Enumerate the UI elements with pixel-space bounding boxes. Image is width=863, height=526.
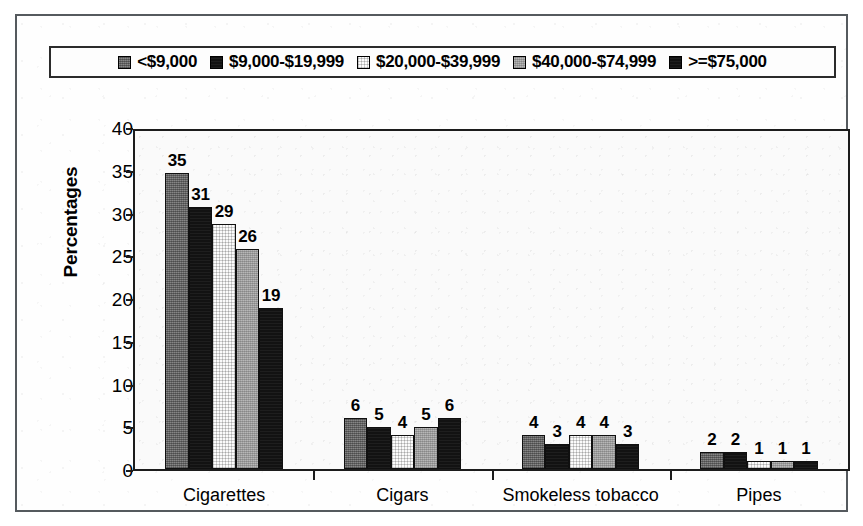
y-axis-tick-mark: [126, 214, 133, 216]
bar-value-label: 26: [238, 228, 257, 245]
bar-item[interactable]: 3: [545, 131, 569, 469]
legend-entry[interactable]: $20,000-$39,999: [357, 52, 500, 72]
bar-item[interactable]: 4: [569, 131, 593, 469]
bar-value-label: 5: [421, 406, 430, 423]
bar-value-label: 4: [599, 414, 608, 431]
dark-gray-swatch: [118, 56, 131, 69]
x-axis-group-separator: [670, 471, 672, 480]
bar-value-label: 31: [191, 186, 210, 203]
bar-value-label: 6: [351, 397, 360, 414]
bar-group: 65456: [344, 131, 462, 469]
bar-item[interactable]: 29: [212, 131, 236, 469]
bar-item[interactable]: 1: [747, 131, 771, 469]
legend-label: <$9,000: [137, 52, 197, 72]
bar[interactable]: [438, 418, 462, 469]
black-swatch: [669, 56, 682, 69]
white-swatch: [357, 56, 370, 69]
y-axis-tick-mark: [126, 385, 133, 387]
x-axis-group-separator: [492, 471, 494, 480]
y-axis-tick-mark: [126, 427, 133, 429]
y-axis-tick-mark: [126, 128, 133, 130]
bar[interactable]: [344, 418, 368, 469]
bar-value-label: 2: [707, 431, 716, 448]
y-axis-ticks: 0510152025303540: [79, 129, 133, 471]
bar-item[interactable]: 6: [344, 131, 368, 469]
bar-item[interactable]: 6: [438, 131, 462, 469]
bar-value-label: 5: [374, 406, 383, 423]
y-axis-tick-mark: [126, 470, 133, 472]
bar[interactable]: [212, 224, 236, 469]
bar-item[interactable]: 3: [616, 131, 640, 469]
bars-layer: 3531292619654564344322111: [135, 131, 848, 469]
bar-item[interactable]: 26: [236, 131, 260, 469]
y-axis-tick-mark: [126, 299, 133, 301]
bar[interactable]: [616, 444, 640, 469]
bar[interactable]: [367, 427, 391, 469]
bar-item[interactable]: 4: [592, 131, 616, 469]
bar[interactable]: [189, 207, 213, 469]
bar-item[interactable]: 2: [700, 131, 724, 469]
bar[interactable]: [724, 452, 748, 469]
bar[interactable]: [236, 249, 260, 469]
black-swatch: [210, 56, 223, 69]
legend-label: >=$75,000: [688, 52, 767, 72]
bar-value-label: 1: [754, 440, 763, 457]
bar-value-label: 4: [529, 414, 538, 431]
bar-value-label: 35: [168, 152, 187, 169]
bar[interactable]: [414, 427, 438, 469]
legend-entry[interactable]: $9,000-$19,999: [210, 52, 344, 72]
y-axis-tick-mark: [126, 256, 133, 258]
bar-item[interactable]: 5: [367, 131, 391, 469]
legend-entry[interactable]: $40,000-$74,999: [513, 52, 656, 72]
bar-value-label: 3: [623, 423, 632, 440]
x-axis-category-label: Cigars: [376, 485, 428, 506]
bar-item[interactable]: 1: [771, 131, 795, 469]
bar[interactable]: [771, 461, 795, 469]
bar-item[interactable]: 1: [794, 131, 818, 469]
bar-value-label: 1: [778, 440, 787, 457]
bar-value-label: 1: [801, 440, 810, 457]
bar-item[interactable]: 4: [522, 131, 546, 469]
legend-label: $20,000-$39,999: [376, 52, 500, 72]
bar[interactable]: [794, 461, 818, 469]
y-axis-tick-mark: [126, 171, 133, 173]
bar-item[interactable]: 31: [189, 131, 213, 469]
legend-entry[interactable]: <$9,000: [118, 52, 197, 72]
x-axis-category-label: Cigarettes: [183, 485, 265, 506]
medium-gray-swatch: [513, 56, 526, 69]
bar[interactable]: [259, 308, 283, 469]
bar[interactable]: [165, 173, 189, 469]
legend-label: $40,000-$74,999: [532, 52, 656, 72]
bar-value-label: 3: [552, 423, 561, 440]
bar-value-label: 4: [576, 414, 585, 431]
bar-value-label: 4: [398, 414, 407, 431]
bar-value-label: 6: [445, 397, 454, 414]
bar[interactable]: [700, 452, 724, 469]
bar-group: 3531292619: [165, 131, 283, 469]
bar-item[interactable]: 19: [259, 131, 283, 469]
bar-value-label: 19: [262, 287, 281, 304]
bar-item[interactable]: 2: [724, 131, 748, 469]
bar[interactable]: [747, 461, 771, 469]
bar-value-label: 2: [731, 431, 740, 448]
bar-item[interactable]: 35: [165, 131, 189, 469]
x-axis-category-label: Smokeless tobacco: [503, 485, 659, 506]
legend-entry[interactable]: >=$75,000: [669, 52, 767, 72]
chart-legend: <$9,000$9,000-$19,999$20,000-$39,999$40,…: [49, 46, 836, 78]
x-axis-group-separator: [313, 471, 315, 480]
bar-group: 22111: [700, 131, 818, 469]
y-axis-tick-mark: [126, 342, 133, 344]
bar[interactable]: [522, 435, 546, 469]
bar[interactable]: [592, 435, 616, 469]
x-axis: CigarettesCigarsSmokeless tobaccoPipes: [133, 471, 850, 517]
bar[interactable]: [391, 435, 415, 469]
bar-item[interactable]: 5: [414, 131, 438, 469]
legend-label: $9,000-$19,999: [229, 52, 344, 72]
x-axis-category-label: Pipes: [736, 485, 781, 506]
figure-frame: <$9,000$9,000-$19,999$20,000-$39,999$40,…: [15, 14, 848, 512]
bar[interactable]: [569, 435, 593, 469]
bar-item[interactable]: 4: [391, 131, 415, 469]
bar-group: 43443: [522, 131, 640, 469]
bar[interactable]: [545, 444, 569, 469]
bar-value-label: 29: [215, 203, 234, 220]
